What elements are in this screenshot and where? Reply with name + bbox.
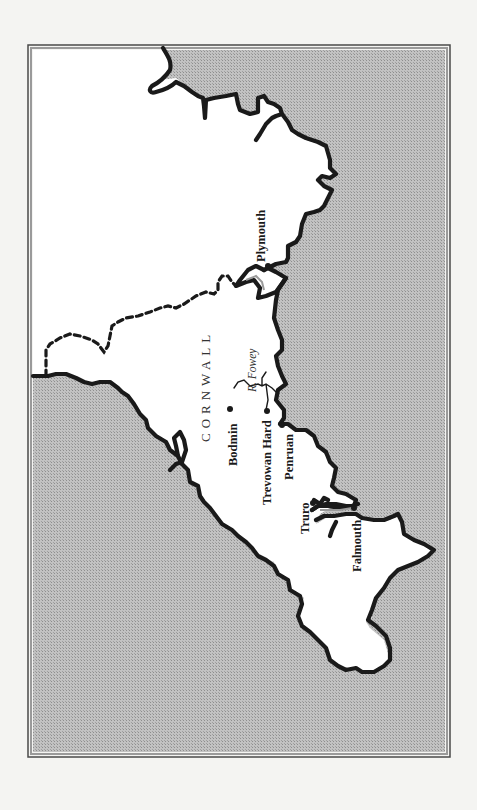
town-dot-plymouth[interactable]	[265, 263, 271, 269]
map: Plymouth Bodmin Trevowan Hard Penruan Tr…	[0, 0, 477, 810]
label-trevowan-hard: Trevowan Hard	[260, 420, 274, 505]
town-dot-bodmin[interactable]	[227, 406, 233, 412]
label-penruan: Penruan	[282, 434, 296, 480]
town-dot-trevowan-hard[interactable]	[264, 408, 270, 414]
label-truro: Truro	[298, 503, 312, 534]
label-plymouth: Plymouth	[254, 210, 268, 262]
label-river-fowey: R. Fowey	[246, 348, 259, 393]
label-bodmin: Bodmin	[226, 424, 240, 466]
town-dot-falmouth[interactable]	[351, 505, 357, 511]
town-dot-penruan[interactable]	[279, 422, 285, 428]
label-cornwall: CORNWALL	[198, 330, 213, 442]
label-falmouth: Falmouth	[350, 520, 364, 572]
